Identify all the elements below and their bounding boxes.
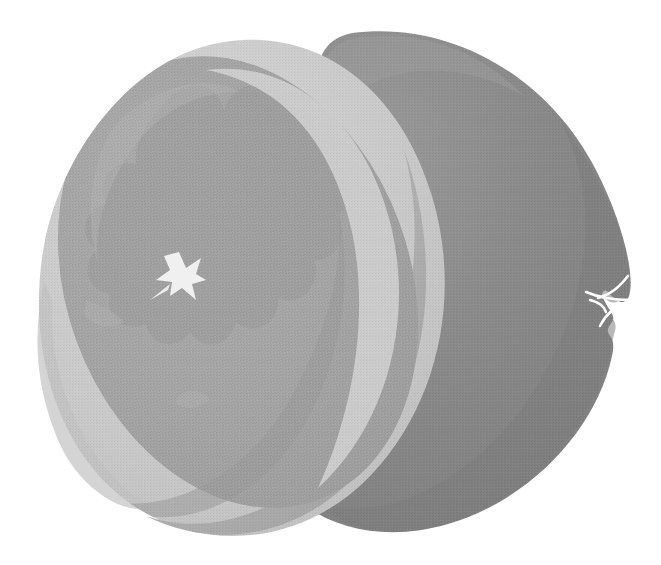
halved-citrus-illustration	[0, 0, 661, 565]
illustration-canvas: A grapefruit cut in half, shown in three…	[0, 0, 661, 565]
